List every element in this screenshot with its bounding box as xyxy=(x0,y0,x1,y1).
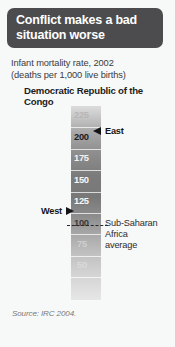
scale-tick-175: 175 xyxy=(71,149,101,170)
subtitle-line-2: (deaths per 1,000 live births) xyxy=(11,69,171,81)
scale-tick-label: 200 xyxy=(74,132,89,142)
scale-tick-150: 150 xyxy=(71,170,101,191)
marker-west-label: West xyxy=(41,206,62,216)
marker-east: East xyxy=(93,126,124,136)
scale-tick-label: 125 xyxy=(74,196,89,206)
scale-tick-75: 75 xyxy=(71,234,101,255)
subtitle-line-1: Infant mortality rate, 2002 xyxy=(11,57,171,69)
infographic-panel: Conflict makes a bad situation worse Inf… xyxy=(0,0,175,347)
scale-tick-label: 225 xyxy=(74,110,89,120)
marker-west: West xyxy=(41,206,74,216)
scale-tick-label: 175 xyxy=(74,153,89,163)
average-label: Sub-Saharan Africa average xyxy=(105,218,173,252)
marker-east-label: East xyxy=(105,126,124,136)
scale-tick-label: 150 xyxy=(74,175,89,185)
scale-tick-label: 50 xyxy=(77,260,87,270)
source-note: Source: IRC 2004. xyxy=(12,309,76,318)
scale-tick-225: 225 xyxy=(71,106,101,127)
subtitle-block: Infant mortality rate, 2002 (deaths per … xyxy=(11,57,171,81)
arrow-left-icon xyxy=(93,127,101,135)
scale-tick-label: 100 xyxy=(74,218,89,228)
scale-tick-50: 50 xyxy=(71,256,101,277)
scale-tick-125: 125 xyxy=(71,192,101,213)
average-reference-line xyxy=(67,225,108,226)
arrow-right-icon xyxy=(66,207,74,215)
page-title: Conflict makes a bad situation worse xyxy=(16,13,155,43)
scale-tick-label: 75 xyxy=(77,239,87,249)
scale-tick-bottom xyxy=(71,277,101,298)
chart-heading: Democratic Republic of the Congo xyxy=(24,85,169,107)
header-banner: Conflict makes a bad situation worse xyxy=(7,8,163,48)
